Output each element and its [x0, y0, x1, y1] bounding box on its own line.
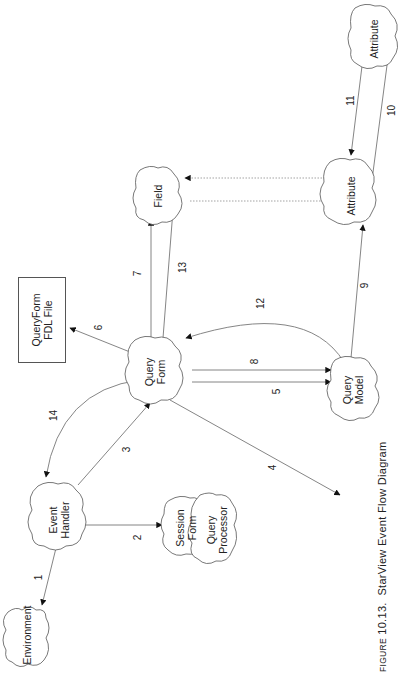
node-label-line2: Handler [59, 502, 71, 539]
edge-13 [163, 210, 173, 338]
node-label: Field [152, 185, 164, 208]
node-label-line1: Session [174, 509, 186, 546]
node-label-line1: Query [341, 376, 353, 405]
node-query-model: QueryModel [330, 358, 376, 422]
node-environment: Environment [4, 600, 50, 670]
edge-label-14: 14 [48, 410, 59, 421]
edge-label-11: 11 [345, 95, 356, 105]
edge-12 [186, 324, 344, 362]
edge-9 [351, 225, 363, 358]
node-query-processor: QueryProcessor [196, 495, 238, 565]
node-label-line2: Model [353, 376, 365, 405]
edge-label-3: 3 [121, 447, 132, 453]
node-event-handler: EventHandler [34, 485, 84, 555]
edge-4 [170, 400, 340, 495]
edge-label-13: 13 [177, 262, 188, 273]
edge-label-5: 5 [271, 389, 282, 395]
caption-title: StarView Event Flow Diagram [376, 442, 388, 596]
node-field: Field [136, 168, 180, 224]
node-query-form: QueryForm [130, 340, 180, 404]
node-label-line1: QueryForm [30, 293, 42, 346]
figure-caption: Figure 10.13. StarView Event Flow Diagra… [376, 442, 388, 672]
caption-prefix: Figure [378, 638, 388, 672]
node-label-line1: Event [47, 507, 59, 534]
node-label-line2: Form [155, 360, 167, 385]
node-attribute-child: Attribute [352, 5, 396, 73]
edge-label-7: 7 [132, 271, 143, 277]
node-label: Attribute [368, 19, 380, 58]
edge-label-10: 10 [386, 105, 397, 116]
node-label: Environment [21, 606, 33, 665]
node-attribute: Attribute [328, 160, 374, 232]
caption-number: 10.13. [376, 602, 388, 634]
edge-label-8: 8 [249, 359, 260, 365]
node-label-line1: Query [205, 516, 217, 545]
edge-label-4: 4 [267, 465, 278, 471]
edge-label-9: 9 [359, 283, 370, 289]
edge-label-1: 1 [33, 575, 44, 581]
edge-3 [78, 403, 150, 485]
edge-14 [46, 380, 140, 477]
node-queryform-fdl-file: QueryFormFDL File [18, 277, 66, 363]
edge-label-12: 12 [255, 298, 266, 309]
node-label: Attribute [345, 176, 357, 215]
edge-label-6: 6 [93, 325, 104, 331]
node-label-line2: Processor [217, 506, 229, 553]
node-label-line1: Query [143, 358, 155, 387]
edge-label-2: 2 [132, 535, 143, 541]
node-label-line2: FDL File [42, 300, 54, 339]
